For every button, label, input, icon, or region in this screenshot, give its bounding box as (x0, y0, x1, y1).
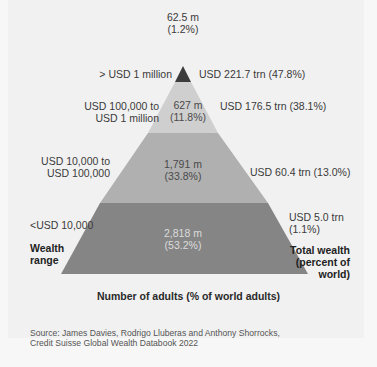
right-axis-label-c: world) (290, 268, 350, 280)
adults-label-3: 1,791 m (33.8%) (153, 158, 213, 182)
right-axis-label: Total wealth (percent of world) (290, 244, 350, 280)
wealth-label-4a: USD 5.0 trn (289, 211, 344, 223)
range-label-3a: USD 10,000 to (41, 155, 110, 167)
range-label-2: USD 100,000 to USD 1 million (84, 100, 159, 124)
range-label-2b: USD 1 million (84, 112, 159, 124)
range-label-4: <USD 10,000 (30, 219, 93, 231)
top-adults-pct: (1.2%) (158, 23, 208, 35)
adults-label-4-value: 2,818 m (153, 227, 213, 239)
wealth-pyramid (0, 0, 377, 367)
adults-label-2-value: 627 m (158, 99, 218, 111)
right-axis-label-a: Total wealth (290, 244, 350, 256)
range-label-3: USD 10,000 to USD 100,000 (41, 155, 110, 179)
adults-label-3-value: 1,791 m (153, 158, 213, 170)
adults-label-2: 627 m (11.8%) (158, 99, 218, 123)
range-label-3b: USD 100,000 (41, 167, 110, 179)
top-adults-label: 62.5 m (1.2%) (158, 11, 208, 35)
wealth-label-1: USD 221.7 trn (47.8%) (199, 68, 305, 80)
adults-label-2-pct: (11.8%) (158, 111, 218, 123)
adults-label-4-pct: (53.2%) (153, 239, 213, 251)
range-label-1: > USD 1 million (99, 68, 172, 80)
tier-1-over-1m (175, 66, 191, 82)
wealth-label-3: USD 60.4 trn (13.0%) (250, 166, 350, 178)
wealth-label-4b: (1.1%) (289, 223, 344, 235)
wealth-label-2: USD 176.5 trn (38.1%) (220, 100, 326, 112)
left-axis-label: Wealth range (30, 242, 64, 266)
source-line-2: Credit Suisse Global Wealth Databook 202… (30, 338, 280, 348)
wealth-label-4: USD 5.0 trn (1.1%) (289, 211, 344, 235)
left-axis-label-a: Wealth (30, 242, 64, 254)
source-note: Source: James Davies, Rodrigo Lluberas a… (30, 328, 280, 348)
top-adults-value: 62.5 m (158, 11, 208, 23)
adults-label-3-pct: (33.8%) (153, 170, 213, 182)
adults-label-4: 2,818 m (53.2%) (153, 227, 213, 251)
right-axis-label-b: (percent of (290, 256, 350, 268)
source-line-1: Source: James Davies, Rodrigo Lluberas a… (30, 328, 280, 338)
chart-title: Number of adults (% of world adults) (0, 290, 377, 302)
left-axis-label-b: range (30, 254, 64, 266)
range-label-2a: USD 100,000 to (84, 100, 159, 112)
